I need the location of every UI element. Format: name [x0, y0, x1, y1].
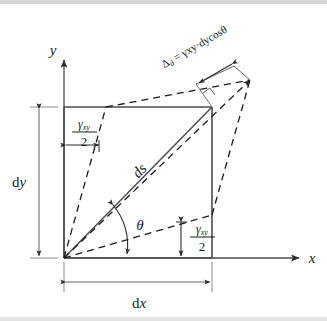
- dx-dimension-group: dx: [64, 262, 212, 311]
- shear-bottom-right-denominator: 2: [199, 239, 206, 254]
- gamma-subscript-tl: xy: [82, 123, 91, 132]
- shear-strain-figure: y x ds: [0, 0, 327, 321]
- theta-arc: [113, 205, 128, 254]
- dx-var: x: [138, 295, 146, 311]
- deformed-right-edge: [212, 80, 250, 215]
- delta-d-label: Δd = γxy·dycosθ: [159, 23, 229, 72]
- delta-d-arrow: [199, 64, 232, 83]
- dx-dimension-label: dx: [132, 295, 147, 311]
- delta-equation-rest: = γxy·dycosθ: [169, 23, 229, 64]
- delta-d-projection-line: [196, 84, 212, 107]
- dy-dimension-group: dy: [12, 107, 58, 258]
- dy-var: y: [17, 174, 26, 190]
- theta-label: θ: [136, 217, 144, 233]
- dy-dimension-label: dy: [12, 174, 27, 190]
- theta-angle-group: θ: [113, 205, 144, 254]
- shear-angle-bottom-right-group: γxy 2: [176, 222, 215, 256]
- deformed-top-edge: [106, 80, 250, 107]
- y-axis-label: y: [48, 42, 57, 58]
- delta-d-label-group: Δd = γxy·dycosθ: [159, 23, 229, 72]
- shear-bottom-right-numerator: γxy: [196, 222, 208, 237]
- axes-group: y x: [48, 42, 316, 266]
- bottom-edge-band: [0, 317, 327, 321]
- diagonal-ds-label: ds: [129, 160, 150, 181]
- shear-top-left-numerator: γxy: [78, 117, 90, 132]
- shear-top-left-denominator: 2: [81, 134, 88, 149]
- gamma-subscript-br: xy: [200, 228, 209, 237]
- x-axis-label: x: [308, 250, 316, 266]
- delta-d-closing-guide: [234, 66, 250, 80]
- diagram-canvas: y x ds: [0, 0, 327, 321]
- shear-angle-top-left-group: γxy 2: [66, 117, 99, 152]
- delta-d-measure-arrows: [199, 64, 232, 83]
- delta-d-construction: [196, 66, 250, 107]
- top-edge-band: [0, 0, 327, 4]
